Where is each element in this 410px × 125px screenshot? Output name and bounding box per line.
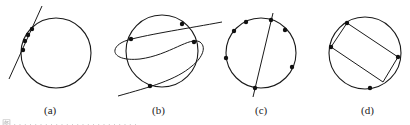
- point-b-2: [192, 40, 196, 44]
- point-c-0: [244, 20, 248, 24]
- point-c-4: [224, 56, 228, 60]
- point-a-1: [26, 33, 30, 37]
- point-a-2: [23, 39, 27, 43]
- point-b-0: [129, 37, 133, 41]
- panel-label-a: (a): [44, 104, 56, 116]
- panel-label-d: (d): [361, 104, 374, 116]
- point-a-3: [21, 48, 25, 52]
- point-d-2: [396, 55, 400, 59]
- point-c-2: [269, 18, 273, 22]
- point-c-6: [253, 86, 257, 90]
- point-c-3: [283, 28, 287, 32]
- point-c-5: [290, 65, 294, 69]
- point-d-3: [368, 86, 372, 90]
- point-d-1: [329, 45, 333, 49]
- figure-canvas: [0, 0, 410, 125]
- point-d-0: [345, 21, 349, 25]
- point-b-3: [148, 84, 152, 88]
- point-c-1: [232, 29, 236, 33]
- line-c-0: [253, 13, 273, 97]
- panel-label-b: (b): [152, 104, 165, 116]
- panel-label-c: (c): [255, 104, 267, 116]
- inscribed-rectangle-d: [331, 23, 398, 82]
- point-a-0: [30, 27, 34, 31]
- point-b-1: [180, 22, 184, 26]
- circle-b: [126, 15, 198, 87]
- figure-caption: 图 · · · · · · · · · · · · · · · · · · · …: [2, 117, 408, 125]
